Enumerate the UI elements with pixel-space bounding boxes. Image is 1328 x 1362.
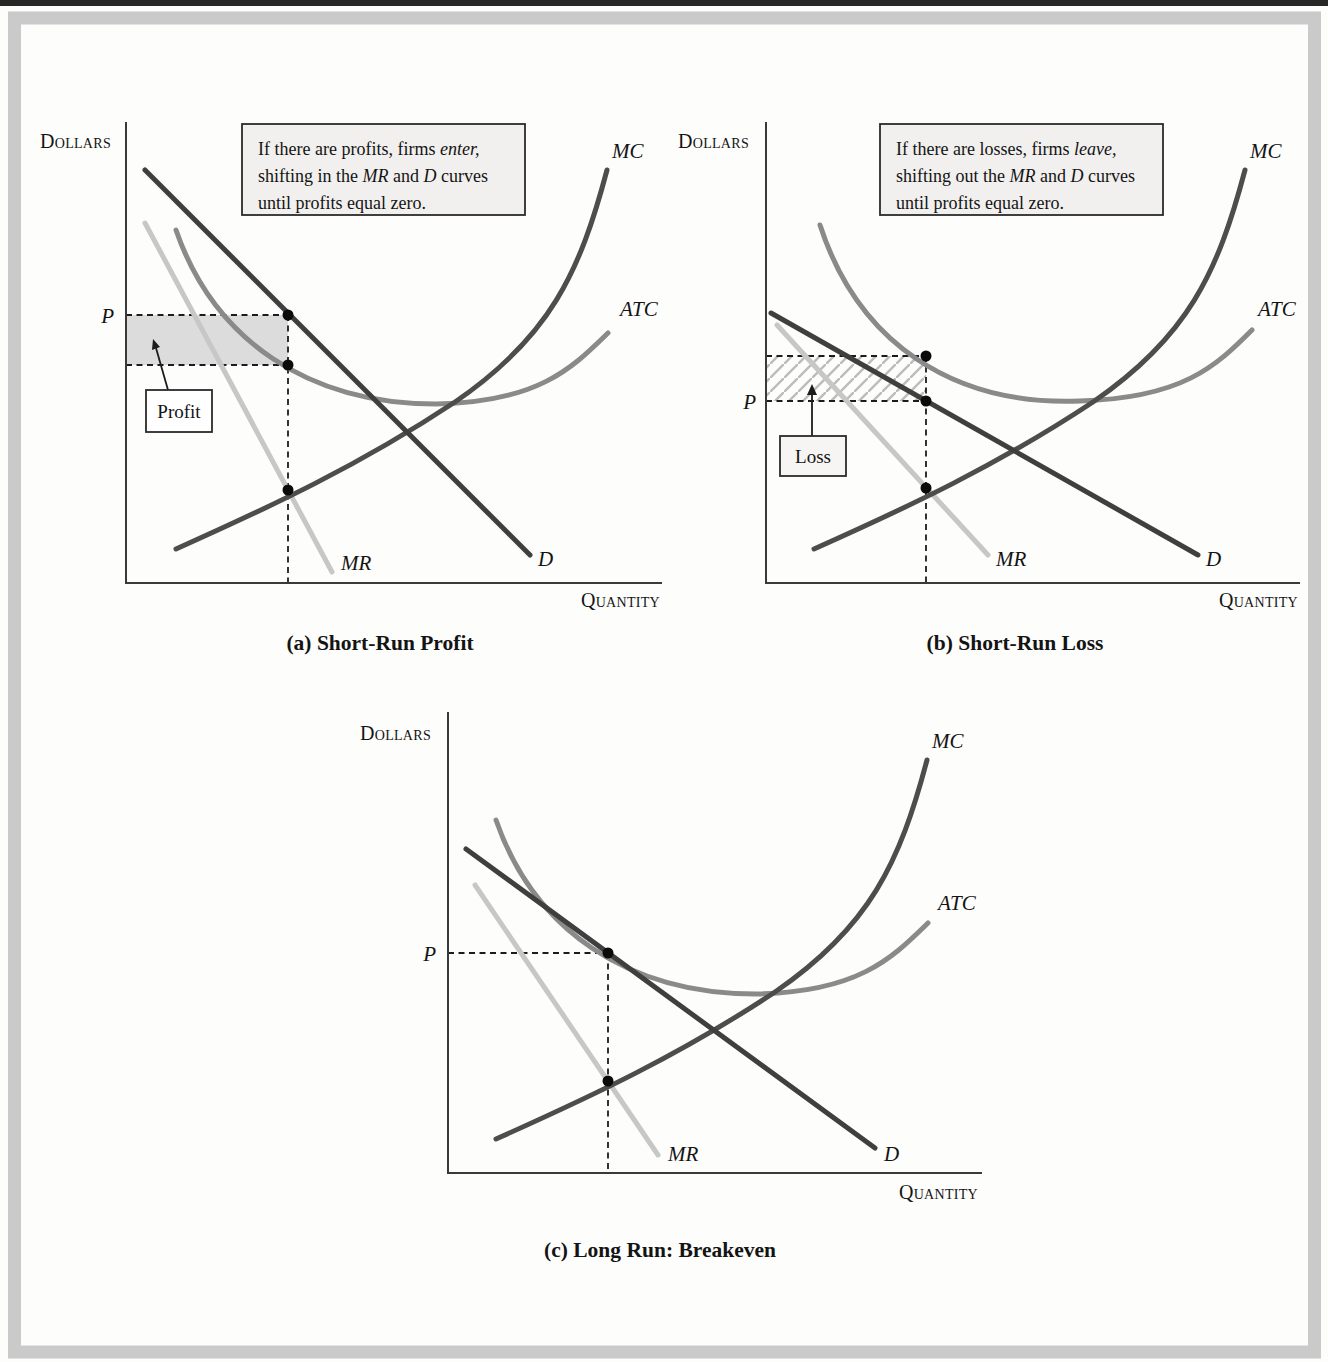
- mr-mc-intersection-dot: [921, 483, 932, 494]
- atc-label: ATC: [1256, 297, 1297, 321]
- x-axis-label: Quantity: [899, 1181, 978, 1203]
- demand-curve: [771, 313, 1198, 555]
- caption-c: (c) Long Run: Breakeven: [544, 1238, 776, 1262]
- note-line-2: shifting in the MR and D curves: [258, 166, 488, 186]
- mc-label: MC: [1249, 139, 1282, 163]
- mc-label: MC: [931, 729, 964, 753]
- price-point-dot: [283, 310, 294, 321]
- note-line-1: If there are losses, firms leave,: [896, 139, 1116, 159]
- caption-a: (a) Short-Run Profit: [286, 631, 474, 655]
- mr-label: MR: [995, 547, 1026, 571]
- note-box-leave: If there are losses, firms leave, shifti…: [880, 124, 1163, 215]
- textbook-figure-page: Dollars Quantity P MC ATC MR D If there …: [0, 0, 1328, 1362]
- y-axis-label: Dollars: [40, 130, 111, 152]
- profit-tag-label: Profit: [157, 401, 201, 422]
- note-line-3: until profits equal zero.: [896, 193, 1064, 213]
- breakeven-tangency-dot: [603, 948, 614, 959]
- price-label: P: [422, 942, 436, 966]
- panel-c-long-run-breakeven: Dollars Quantity P MC ATC MR D (c) Long …: [360, 712, 982, 1262]
- axes: [448, 712, 982, 1173]
- atc-point-dot: [283, 360, 294, 371]
- mr-mc-intersection-dot: [283, 485, 294, 496]
- atc-label: ATC: [936, 891, 977, 915]
- d-label: D: [1205, 547, 1221, 571]
- x-axis-label: Quantity: [581, 589, 660, 611]
- y-axis-label: Dollars: [360, 722, 431, 744]
- loss-tag-label: Loss: [795, 446, 831, 467]
- mr-label: MR: [340, 551, 371, 575]
- panel-b-short-run-loss: Dollars Quantity P MC ATC MR D If there …: [678, 122, 1300, 655]
- note-line-1: If there are profits, firms enter,: [258, 139, 479, 159]
- loss-region: [766, 356, 926, 401]
- scan-top-edge: [0, 0, 1328, 6]
- mc-curve: [496, 760, 927, 1139]
- y-axis-label: Dollars: [678, 130, 749, 152]
- panel-a-short-run-profit: Dollars Quantity P MC ATC MR D If there …: [40, 122, 662, 655]
- mr-label: MR: [667, 1142, 698, 1166]
- price-point-dot: [921, 396, 932, 407]
- note-line-3: until profits equal zero.: [258, 193, 426, 213]
- demand-curve: [466, 849, 875, 1148]
- mr-mc-intersection-dot: [603, 1076, 614, 1087]
- mc-label: MC: [611, 139, 644, 163]
- caption-b: (b) Short-Run Loss: [927, 631, 1104, 655]
- d-label: D: [537, 547, 553, 571]
- monopolistic-competition-figure: Dollars Quantity P MC ATC MR D If there …: [0, 0, 1328, 1362]
- price-label: P: [742, 390, 756, 414]
- atc-label: ATC: [618, 297, 659, 321]
- x-axis-label: Quantity: [1219, 589, 1298, 611]
- atc-point-dot: [921, 351, 932, 362]
- price-label: P: [100, 304, 114, 328]
- d-label: D: [883, 1142, 899, 1166]
- note-box-enter: If there are profits, firms enter, shift…: [242, 124, 525, 215]
- note-line-2: shifting out the MR and D curves: [896, 166, 1135, 186]
- figure-frame-border: [15, 18, 1315, 1352]
